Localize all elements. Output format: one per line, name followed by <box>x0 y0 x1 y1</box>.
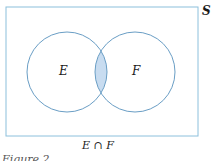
venn-diagram <box>0 0 211 161</box>
universe-label: S <box>202 4 211 18</box>
figure-label: Figure 2 <box>2 153 50 161</box>
set-f-label: F <box>132 64 140 78</box>
intersection-caption: E ∩ F <box>82 139 114 152</box>
set-e-label: E <box>59 64 68 78</box>
